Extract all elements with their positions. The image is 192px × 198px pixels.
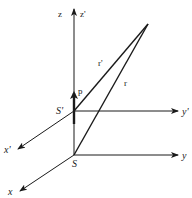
x-axis-label: x — [7, 186, 13, 197]
s-origin-label: S — [72, 158, 77, 169]
s-prime-origin-label: S' — [56, 105, 64, 116]
z-axis-label: z — [58, 9, 62, 19]
x-axis — [20, 155, 74, 191]
coordinate-frames-diagram: z z' y' y x' x S' S p r' r — [0, 0, 192, 198]
z-prime-axis-label: z' — [80, 9, 86, 19]
r-vector-label: r — [124, 78, 127, 88]
y-axis-label: y — [181, 150, 187, 161]
r-vector — [74, 24, 148, 155]
y-prime-axis-label: y' — [181, 106, 189, 117]
r-prime-vector — [74, 24, 148, 111]
r-prime-vector-label: r' — [98, 58, 103, 68]
x-prime-axis-label: x' — [3, 144, 11, 155]
p-vector-label: p — [78, 86, 83, 96]
x-prime-axis — [18, 111, 74, 149]
